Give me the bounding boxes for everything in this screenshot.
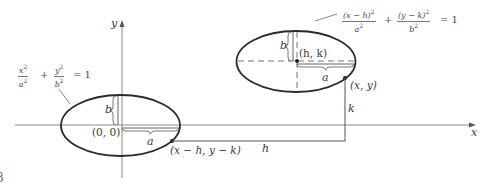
y-axis-arrow-icon: [120, 20, 125, 27]
exponent: 2: [24, 77, 28, 84]
left-eq-term2: y2 b2: [54, 64, 64, 89]
exponent: 2: [414, 22, 418, 29]
x-axis-label: x: [471, 127, 477, 138]
origin-label: (0, 0): [92, 127, 120, 138]
y-axis-label: y: [111, 18, 117, 29]
left-equation-leader: [59, 89, 70, 104]
right-b-label: b: [280, 40, 287, 51]
right-eq-term2: (y − k)2 b2: [397, 9, 430, 34]
right-equation-leader: [315, 14, 337, 21]
right-eq-term1-num: (x − h): [343, 11, 371, 20]
left-eq-equals: = 1: [73, 70, 91, 80]
exponent: 2: [24, 63, 28, 70]
left-point-label: (x − h, y − k): [170, 145, 241, 156]
exponent: 2: [60, 77, 64, 84]
point-xy-label: (x, y): [350, 80, 377, 91]
right-a-brace-icon: [297, 64, 354, 70]
left-eq-term1: x2 a2: [18, 64, 28, 89]
figure-number-fragment: 8: [0, 172, 4, 184]
exponent: 2: [60, 63, 64, 70]
right-a-label: a: [322, 72, 329, 83]
right-eq-plus: +: [384, 15, 392, 25]
exponent: 2: [359, 22, 363, 29]
left-a-brace-icon: [122, 128, 179, 134]
exponent: 2: [371, 8, 375, 15]
right-eq-term1: (x − h)2 a2: [342, 9, 376, 34]
center-hk-dot: [295, 59, 299, 63]
exponent: 2: [425, 8, 429, 15]
left-eq-plus: +: [40, 70, 48, 80]
center-hk-label: (h, k): [299, 48, 327, 59]
translation-k-label: k: [348, 103, 355, 114]
left-a-label: a: [147, 136, 154, 147]
translation-h-label: h: [262, 143, 269, 154]
right-eq-equals: = 1: [440, 15, 458, 25]
right-eq-term2-num: (y − k): [398, 11, 425, 20]
left-b-label: b: [105, 104, 112, 115]
